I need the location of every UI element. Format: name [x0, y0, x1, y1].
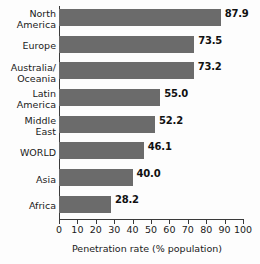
bar-row: 40.0 — [59, 166, 243, 193]
penetration-rate-bar-chart: NorthAmericaEuropeAustralia/OceaniaLatin… — [0, 0, 260, 264]
category-label-line: Europe — [23, 40, 56, 51]
x-axis-tick-label: 30 — [108, 224, 120, 235]
category-label-line: America — [17, 19, 56, 30]
category-label-line: North — [29, 8, 56, 19]
x-axis-tick-label: 90 — [219, 224, 231, 235]
bar — [59, 36, 194, 53]
x-axis-tick-label: 50 — [145, 224, 157, 235]
bar-row: 46.1 — [59, 139, 243, 166]
category-label-line: America — [17, 99, 56, 110]
category-label: Africa — [0, 192, 56, 219]
x-axis-tick-label: 80 — [200, 224, 212, 235]
x-axis-tick-label: 0 — [56, 224, 62, 235]
category-label-line: Oceania — [17, 73, 56, 84]
category-label: NorthAmerica — [0, 6, 56, 33]
x-axis-tick-label: 60 — [163, 224, 175, 235]
x-axis-tick-label: 70 — [182, 224, 194, 235]
bar-value-label: 40.0 — [137, 168, 161, 179]
category-label-line: WORLD — [20, 147, 56, 158]
category-label-line: Latin — [33, 88, 57, 99]
category-label: MiddleEast — [0, 113, 56, 140]
category-axis-labels: NorthAmericaEuropeAustralia/OceaniaLatin… — [0, 6, 56, 219]
bar — [59, 62, 194, 79]
bar-row: 73.2 — [59, 59, 243, 86]
bar-value-label: 73.2 — [198, 61, 222, 72]
bar-value-label: 46.1 — [148, 141, 172, 152]
x-axis-tick-label: 100 — [234, 224, 252, 235]
bar-value-label: 28.2 — [115, 194, 139, 205]
bar-value-label: 52.2 — [159, 115, 183, 126]
bar — [59, 89, 160, 106]
bar-row: 52.2 — [59, 113, 243, 140]
bar-row: 28.2 — [59, 192, 243, 219]
x-axis-title: Penetration rate (% population) — [0, 243, 260, 254]
category-label-line: Africa — [29, 200, 56, 211]
bar — [59, 142, 144, 159]
bar-value-label: 87.9 — [225, 8, 249, 19]
bar — [59, 9, 221, 26]
category-label: WORLD — [0, 139, 56, 166]
category-label-line: Middle — [25, 115, 56, 126]
bar — [59, 116, 155, 133]
category-label: Europe — [0, 33, 56, 60]
bar — [59, 196, 111, 213]
bar-row: 87.9 — [59, 6, 243, 33]
plot-area: 87.973.573.255.052.246.140.028.2 — [59, 6, 243, 219]
category-label: LatinAmerica — [0, 86, 56, 113]
category-label: Asia — [0, 166, 56, 193]
category-label-line: East — [36, 126, 57, 137]
bar-value-label: 55.0 — [164, 88, 188, 99]
x-axis-tick-label: 40 — [127, 224, 139, 235]
category-label: Australia/Oceania — [0, 59, 56, 86]
x-axis-title-text: Penetration rate (% population) — [38, 243, 222, 254]
category-label-line: Australia/ — [11, 62, 56, 73]
bar-value-label: 73.5 — [198, 35, 222, 46]
x-axis-tick-label: 20 — [90, 224, 102, 235]
bar-row: 55.0 — [59, 86, 243, 113]
bar-row: 73.5 — [59, 33, 243, 60]
category-label-line: Asia — [36, 174, 56, 185]
bar — [59, 169, 133, 186]
x-axis-tick-label: 10 — [71, 224, 83, 235]
